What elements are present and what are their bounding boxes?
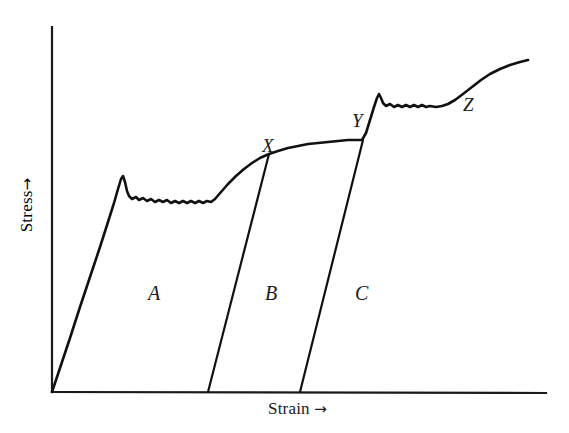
region-label-a: A <box>148 283 160 303</box>
stress-strain-figure: Stress→ Strain → X Y Z A B C <box>0 0 569 433</box>
axes-group <box>52 27 546 393</box>
stress-strain-chart <box>0 0 569 433</box>
region-label-c: C <box>355 283 368 303</box>
curves-group <box>52 60 528 392</box>
y-axis-title: Stress→ <box>17 178 37 233</box>
point-label-x: X <box>262 136 274 155</box>
point-label-z: Z <box>463 95 474 114</box>
unload-line-x <box>208 154 269 392</box>
stress-strain-curve <box>52 60 528 392</box>
unload-line-y <box>300 140 363 392</box>
x-axis-title-text: Strain <box>268 399 310 418</box>
x-axis-arrow-icon: → <box>314 400 327 418</box>
x-axis-title: Strain → <box>268 400 327 417</box>
y-axis-arrow-icon: → <box>18 178 36 191</box>
y-axis-title-wrap: Stress→ <box>6 120 48 290</box>
y-axis-title-text: Stress <box>17 190 36 232</box>
point-label-y: Y <box>352 111 363 130</box>
region-label-b: B <box>265 283 277 303</box>
